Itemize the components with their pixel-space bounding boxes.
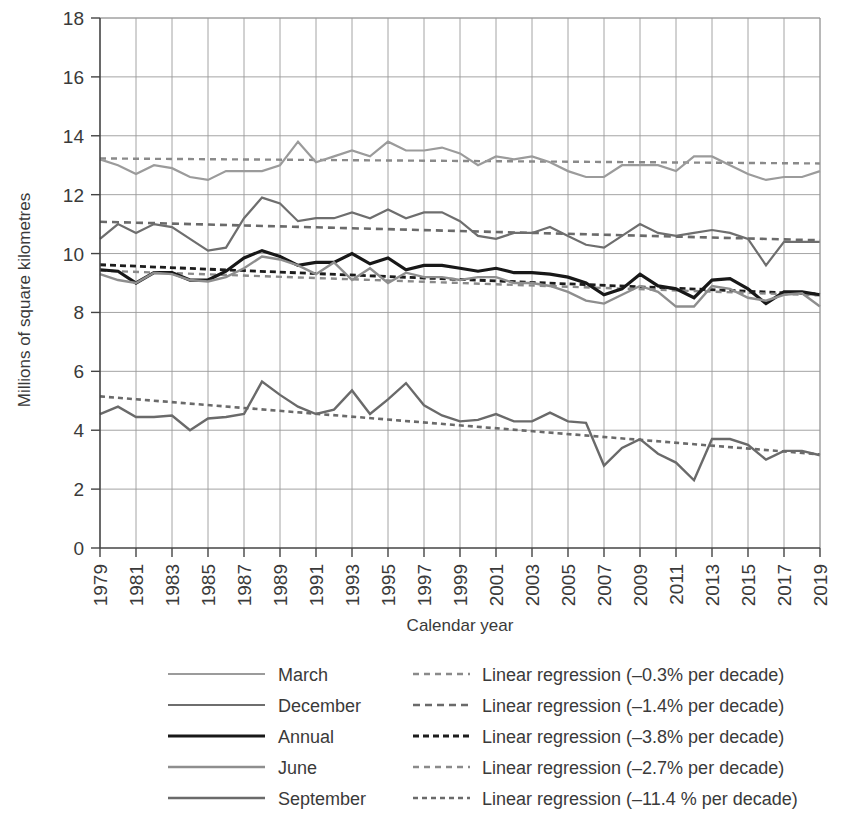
x-tick-label: 1999: [450, 564, 471, 606]
legend: MarchLinear regression (–0.3% per decade…: [168, 665, 798, 809]
x-tick-label: 2003: [522, 564, 543, 606]
legend-series-label: March: [278, 665, 328, 685]
x-tick-label: 1997: [414, 564, 435, 606]
legend-row: DecemberLinear regression (–1.4% per dec…: [168, 696, 784, 716]
chart-svg: Millions of square kilometres Calendar y…: [0, 0, 861, 830]
y-tick-label: 2: [73, 479, 84, 500]
x-tick-label: 2005: [558, 564, 579, 606]
x-tick-label: 1979: [90, 564, 111, 606]
x-tick-label: 1989: [270, 564, 291, 606]
y-tick-label: 18: [63, 8, 84, 29]
legend-series-label: Annual: [278, 727, 334, 747]
y-tick-label: 4: [73, 420, 84, 441]
legend-series-label: December: [278, 696, 361, 716]
x-tick-label: 2017: [774, 564, 795, 606]
x-tick-label: 1983: [162, 564, 183, 606]
x-tick-label: 2007: [594, 564, 615, 606]
x-tick-label: 2015: [738, 564, 759, 606]
x-axis-title: Calendar year: [407, 616, 514, 635]
y-tick-label: 12: [63, 185, 84, 206]
x-tick-label: 2001: [486, 564, 507, 606]
x-tick-label: 1995: [378, 564, 399, 606]
sea-ice-extent-chart: Millions of square kilometres Calendar y…: [0, 0, 861, 830]
legend-row: SeptemberLinear regression (–11.4 % per …: [168, 789, 798, 809]
y-axis-title: Millions of square kilometres: [15, 193, 34, 407]
y-tick-label: 14: [63, 126, 85, 147]
legend-trend-label: Linear regression (–2.7% per decade): [482, 758, 784, 778]
x-tick-label: 2009: [630, 564, 651, 606]
x-tick-label: 1991: [306, 564, 327, 606]
legend-row: MarchLinear regression (–0.3% per decade…: [168, 665, 784, 685]
legend-row: JuneLinear regression (–2.7% per decade): [168, 758, 784, 778]
legend-series-label: June: [278, 758, 317, 778]
y-tick-label: 0: [73, 538, 84, 559]
legend-trend-label: Linear regression (–1.4% per decade): [482, 696, 784, 716]
x-tick-label: 1985: [198, 564, 219, 606]
legend-series-label: September: [278, 789, 366, 809]
y-tick-label: 6: [73, 361, 84, 382]
legend-row: AnnualLinear regression (–3.8% per decad…: [168, 727, 784, 747]
y-tick-label: 8: [73, 302, 84, 323]
legend-trend-label: Linear regression (–11.4 % per decade): [482, 789, 798, 809]
x-tick-label: 2011: [666, 564, 687, 605]
y-tick-label: 10: [63, 244, 84, 265]
x-tick-label: 2013: [702, 564, 723, 606]
x-tick-label: 1981: [126, 564, 147, 606]
x-tick-label: 1993: [342, 564, 363, 606]
y-tick-label: 16: [63, 67, 84, 88]
legend-trend-label: Linear regression (–0.3% per decade): [482, 665, 784, 685]
x-tick-labels: 1979198119831985198719891991199319951997…: [90, 564, 831, 606]
x-tick-label: 1987: [234, 564, 255, 606]
y-tick-labels: 024681012141618: [63, 8, 85, 559]
x-tick-label: 2019: [810, 564, 831, 606]
legend-trend-label: Linear regression (–3.8% per decade): [482, 727, 784, 747]
